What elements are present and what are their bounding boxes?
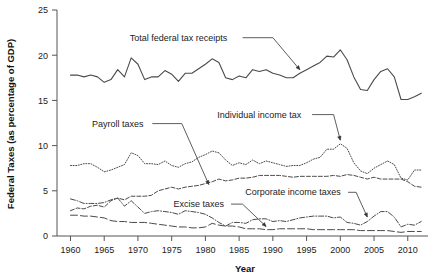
- y-axis-title: Federal Taxes (as percentage of GDP): [5, 39, 16, 209]
- series-line-corporate-income-taxes: [70, 198, 421, 227]
- chart-figure: Federal Taxes (as percentage of GDP) Yea…: [0, 0, 432, 278]
- x-axis-title: Year: [235, 263, 255, 274]
- chart-annotations-group: Total federal tax receiptsIndividual inc…: [92, 33, 367, 227]
- annotation-label: Excise taxes: [173, 199, 224, 209]
- series-line-total-federal-tax-receipts: [70, 50, 421, 100]
- annotation-label: Payroll taxes: [92, 119, 144, 129]
- chart-series-group: [70, 50, 421, 233]
- x-tick-label: 2000: [330, 245, 350, 255]
- y-tick-label: 20: [38, 51, 48, 61]
- x-tick-label: 1975: [162, 245, 182, 255]
- y-tick-label: 15: [38, 96, 48, 106]
- annotation-leader-line: [231, 204, 266, 226]
- annotation-leader-line: [312, 115, 340, 141]
- y-tick-label: 0: [43, 231, 48, 241]
- federal-taxes-line-chart: Federal Taxes (as percentage of GDP) Yea…: [0, 0, 432, 278]
- x-tick-label: 2010: [398, 245, 418, 255]
- x-tick-label: 1995: [297, 245, 317, 255]
- y-tick-label: 25: [38, 5, 48, 15]
- x-axis-ticks: 1960196519701975198019851990199520002005…: [60, 236, 417, 255]
- x-tick-label: 2005: [364, 245, 384, 255]
- x-tick-label: 1970: [128, 245, 148, 255]
- x-tick-label: 1990: [263, 245, 283, 255]
- x-tick-label: 1985: [229, 245, 249, 255]
- x-tick-label: 1980: [195, 245, 215, 255]
- annotation-arrowhead: [338, 136, 341, 140]
- y-tick-label: 10: [38, 141, 48, 151]
- annotation-label: Total federal tax receipts: [130, 33, 228, 43]
- annotation-label: Corporate income taxes: [245, 187, 341, 197]
- x-tick-label: 1965: [94, 245, 114, 255]
- x-tick-label: 1960: [60, 245, 80, 255]
- annotation-leader-line: [243, 38, 300, 70]
- y-tick-label: 5: [43, 186, 48, 196]
- annotation-label: Individual income tax: [217, 110, 302, 120]
- annotation-arrowhead: [364, 213, 367, 217]
- series-line-individual-income-tax: [70, 144, 421, 180]
- annotation-leader-line: [152, 124, 209, 185]
- y-axis-ticks: 0510152025: [38, 5, 57, 241]
- annotation-leader-line: [348, 192, 367, 217]
